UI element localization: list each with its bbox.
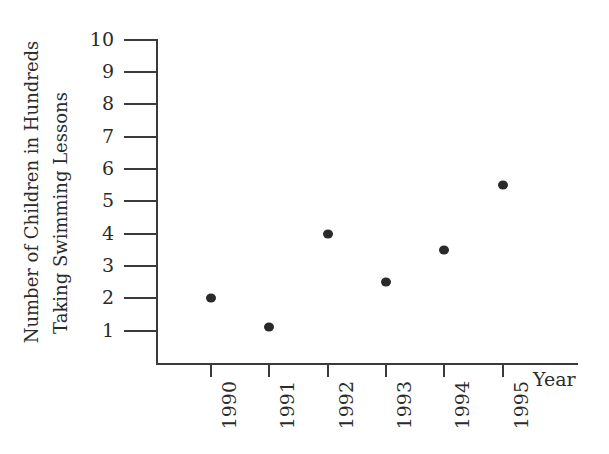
x-tick-1992	[327, 364, 329, 377]
x-tick-1990	[210, 364, 212, 377]
y-tick-label-8: 8	[80, 94, 114, 113]
data-point-1992	[323, 229, 333, 238]
y-tick-label-9: 9	[80, 62, 114, 81]
y-tick-label-5: 5	[80, 191, 114, 210]
y-tick-7	[124, 136, 156, 138]
x-tick-label-1992: 1992	[337, 381, 356, 429]
y-tick-label-4: 4	[80, 224, 114, 243]
y-axis-title: Number of Children in Hundreds Taking Sw…	[16, 0, 88, 454]
y-tick-8	[124, 103, 156, 105]
data-point-1993	[381, 278, 391, 287]
y-tick-2	[124, 297, 156, 299]
x-tick-label-1993: 1993	[395, 381, 414, 429]
y-tick-label-3: 3	[80, 256, 114, 275]
y-tick-label-1: 1	[80, 321, 114, 340]
data-point-1995	[498, 181, 508, 190]
x-tick-label-1991: 1991	[278, 381, 297, 429]
x-axis-title: Year	[533, 370, 576, 389]
x-tick-1995	[502, 364, 504, 377]
y-axis-title-line-2: Taking Swimming Lessons	[52, 92, 70, 334]
y-tick-4	[124, 233, 156, 235]
y-tick-10	[124, 39, 156, 41]
y-tick-label-7: 7	[80, 127, 114, 146]
scatter-chart: Number of Children in Hundreds Taking Sw…	[0, 0, 609, 454]
y-tick-9	[124, 71, 156, 73]
y-tick-1	[124, 330, 156, 332]
y-tick-label-6: 6	[80, 159, 114, 178]
data-point-1991	[264, 323, 274, 332]
x-tick-1991	[268, 364, 270, 377]
x-tick-label-1994: 1994	[453, 381, 472, 429]
y-tick-label-2: 2	[80, 288, 114, 307]
x-tick-1993	[385, 364, 387, 377]
y-tick-6	[124, 168, 156, 170]
x-tick-label-1990: 1990	[220, 381, 239, 429]
data-point-1994	[439, 245, 449, 254]
data-point-1990	[206, 294, 216, 303]
y-tick-5	[124, 200, 156, 202]
x-axis-line	[156, 363, 578, 365]
y-tick-3	[124, 265, 156, 267]
x-tick-1994	[443, 364, 445, 377]
x-tick-label-1995: 1995	[512, 381, 531, 429]
y-tick-label-10: 10	[80, 30, 114, 49]
y-axis-line	[156, 39, 158, 365]
y-axis-title-line-1: Number of Children in Hundreds	[23, 41, 41, 344]
